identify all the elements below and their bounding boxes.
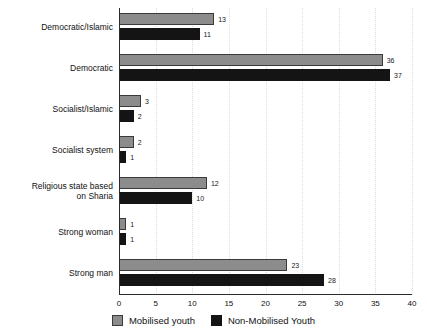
bar-value-label: 10 <box>196 195 204 202</box>
bar-item: 2 <box>119 110 142 122</box>
y-axis-line <box>119 8 120 295</box>
bar-item: 10 <box>119 192 204 204</box>
category-label: Democratic/Islamic <box>0 22 113 32</box>
bar <box>119 54 383 66</box>
bar-value-label: 28 <box>328 277 336 284</box>
legend-swatch-icon-non-mobilised <box>211 315 222 326</box>
bar-item: 1 <box>119 218 134 230</box>
bar-group: 11 <box>119 213 412 254</box>
bar-group: 1311 <box>119 8 412 49</box>
bar-group: 3637 <box>119 49 412 90</box>
bar <box>119 233 126 245</box>
bar-item: 3 <box>119 95 149 107</box>
gridline <box>412 8 413 295</box>
x-tick-label: 0 <box>117 299 121 309</box>
bar-group: 21 <box>119 131 412 172</box>
x-axis-line <box>119 294 412 295</box>
legend-label-non-mobilised: Non-Mobilised Youth <box>228 315 315 326</box>
bar-value-label: 2 <box>138 113 142 120</box>
bar-value-label: 3 <box>145 98 149 105</box>
bar <box>119 136 134 148</box>
bar-item: 2 <box>119 136 142 148</box>
bar-item: 11 <box>119 28 211 40</box>
bar-item: 1 <box>119 151 134 163</box>
category-label: Strong man <box>0 268 113 278</box>
legend-item-mobilised-youth: Mobilised youth <box>112 315 195 326</box>
bar <box>119 95 141 107</box>
x-tick-label: 10 <box>188 299 197 309</box>
x-tick-label: 40 <box>408 299 417 309</box>
bar-value-label: 11 <box>204 31 211 38</box>
bar-chart: 1311363732211210112328 Democratic/Islami… <box>0 0 427 335</box>
bar-value-label: 1 <box>130 221 134 228</box>
bar-value-label: 1 <box>130 236 134 243</box>
bar <box>119 259 287 271</box>
bar-value-label: 2 <box>138 139 142 146</box>
bar-value-label: 12 <box>211 180 219 187</box>
plot-area: 1311363732211210112328 <box>119 8 412 295</box>
bar-item: 12 <box>119 177 219 189</box>
bar-item: 28 <box>119 274 336 286</box>
bar-item: 13 <box>119 13 226 25</box>
bar-item: 23 <box>119 259 299 271</box>
bar-value-label: 13 <box>218 16 226 23</box>
bar <box>119 218 126 230</box>
chart-legend: Mobilised youth Non-Mobilised Youth <box>0 315 427 326</box>
bar-rows: 1311363732211210112328 <box>119 8 412 295</box>
legend-swatch-icon-mobilised <box>112 315 123 326</box>
category-label: Socialist/Islamic <box>0 104 113 114</box>
bar-value-label: 37 <box>394 72 402 79</box>
bar-item: 37 <box>119 69 402 81</box>
x-tick-label: 5 <box>153 299 157 309</box>
bar <box>119 28 200 40</box>
bar-value-label: 23 <box>291 262 299 269</box>
x-tick-label: 30 <box>334 299 343 309</box>
x-tick-label: 20 <box>261 299 270 309</box>
bar-value-label: 1 <box>130 154 134 161</box>
legend-item-non-mobilised-youth: Non-Mobilised Youth <box>211 315 315 326</box>
x-tick-label: 15 <box>224 299 233 309</box>
category-label: Socialist system <box>0 145 113 155</box>
category-label: Democratic <box>0 63 113 73</box>
bar-group: 1210 <box>119 172 412 213</box>
bar-value-label: 36 <box>387 57 395 64</box>
legend-label-mobilised: Mobilised youth <box>129 315 195 326</box>
x-tick-label: 35 <box>371 299 380 309</box>
bar-group: 32 <box>119 90 412 131</box>
category-axis-labels: Democratic/IslamicDemocraticSocialist/Is… <box>0 8 113 295</box>
bar <box>119 69 390 81</box>
bar <box>119 192 192 204</box>
bar-item: 1 <box>119 233 134 245</box>
bar <box>119 274 324 286</box>
bar <box>119 177 207 189</box>
bar-item: 36 <box>119 54 394 66</box>
x-tick-label: 25 <box>298 299 307 309</box>
category-label: Strong woman <box>0 227 113 237</box>
bar-group: 2328 <box>119 254 412 295</box>
x-tick-labels: 0510152025303540 <box>119 299 412 311</box>
bar <box>119 110 134 122</box>
category-label: Religious state based on Sharia <box>0 181 113 201</box>
bar <box>119 13 214 25</box>
bar <box>119 151 126 163</box>
